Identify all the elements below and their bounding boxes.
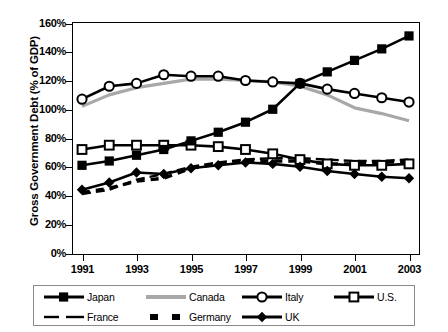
legend-item-uk[interactable]: UK [240,308,332,326]
data-point [131,167,141,177]
legend-item-italy[interactable]: Italy [240,288,332,306]
data-point [77,95,86,104]
x-tick-mark [246,255,247,261]
legend-item-canada[interactable]: Canada [144,288,240,306]
data-point [105,156,114,165]
legend-item-france[interactable]: France [42,308,144,326]
legend-item-label: Germany [189,311,231,323]
data-point [323,67,332,76]
x-tick-mark [410,255,411,261]
data-point [241,76,250,85]
legend-item-label: U.S. [377,291,397,303]
legend-swatch-icon [240,310,284,324]
data-point [295,79,304,88]
x-tick-label: 1999 [279,263,323,275]
data-point [404,173,414,183]
x-tick-label: 1997 [224,263,268,275]
x-tick-mark [83,255,84,261]
data-point [105,141,114,150]
y-tick-label: 40% [0,189,66,201]
data-point [214,72,223,81]
data-point [268,149,277,158]
data-point [405,159,414,168]
y-tick-label: 60% [0,160,66,172]
x-tick-label: 1995 [170,263,214,275]
data-point [186,72,195,81]
data-point [132,151,141,160]
y-tick-label: 120% [0,74,66,86]
data-point [159,145,168,154]
data-point [404,31,413,40]
data-point [214,128,223,137]
data-point [377,172,387,182]
legend-item-label: Japan [87,291,115,303]
data-point [268,77,277,86]
y-tick-label: 160% [0,17,66,29]
legend-item-japan[interactable]: Japan [42,288,144,306]
y-tick-label: 0% [0,247,66,259]
data-point [78,145,87,154]
legend-item-label: Canada [189,291,225,303]
legend-item-us[interactable]: U.S. [332,288,424,306]
x-tick-mark [355,255,356,261]
data-point [186,136,195,145]
data-point [377,93,386,102]
y-axis-ticks: 0%20%40%60%80%100%120%140%160% [0,0,72,332]
chart-legend: JapanCanadaItalyU.S.FranceGermanyUK [33,285,415,326]
legend-swatch-icon [240,290,284,304]
data-point [159,70,168,79]
data-point [77,161,86,170]
legend-item-germany[interactable]: Germany [144,308,240,326]
legend-item-label: Italy [285,291,303,303]
data-point [268,105,277,114]
y-tick-label: 20% [0,218,66,230]
data-point [350,56,359,65]
x-tick-mark [137,255,138,261]
legend-swatch-icon [332,290,376,304]
data-point [105,82,114,91]
data-point [132,79,141,88]
x-tick-label: 1993 [115,263,159,275]
data-point [350,161,359,170]
chart-figure: Gross Government Debt (% of GDP) 0%20%40… [0,0,448,332]
legend-swatch-icon [42,310,86,324]
x-tick-mark [301,255,302,261]
legend-swatch-icon [144,310,188,324]
data-point [214,142,223,151]
legend-item-label: UK [285,311,299,323]
x-tick-label: 2001 [333,263,377,275]
legend-swatch-icon [144,290,188,304]
y-tick-label: 140% [0,45,66,57]
y-tick-label: 100% [0,103,66,115]
x-tick-mark [192,255,193,261]
data-point [377,161,386,170]
legend-swatch-icon [42,290,86,304]
x-tick-label: 2003 [388,263,432,275]
data-point [323,85,332,94]
y-tick-label: 80% [0,132,66,144]
x-tick-label: 1991 [61,263,105,275]
data-point [241,118,250,127]
legend-item-label: France [87,311,118,323]
data-point [377,44,386,53]
series-canvas [73,23,418,253]
plot-area [72,22,420,255]
data-point [186,163,196,173]
data-point [241,145,250,154]
data-point [404,97,413,106]
data-point [350,89,359,98]
data-point [132,141,141,150]
